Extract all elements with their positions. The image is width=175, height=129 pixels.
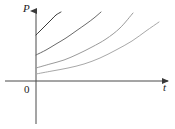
growth-curve-2 bbox=[36, 12, 101, 55]
exponential-growth-figure: P t 0 bbox=[0, 0, 175, 129]
plot-canvas bbox=[0, 0, 175, 129]
growth-curve-4 bbox=[36, 22, 159, 74]
growth-curve-3 bbox=[36, 13, 133, 68]
growth-curve-1 bbox=[36, 12, 61, 35]
x-axis-label: t bbox=[163, 82, 166, 93]
curves-group bbox=[36, 12, 159, 74]
axes-group bbox=[5, 11, 168, 124]
y-axis-label: P bbox=[23, 3, 30, 14]
origin-label: 0 bbox=[24, 84, 30, 95]
